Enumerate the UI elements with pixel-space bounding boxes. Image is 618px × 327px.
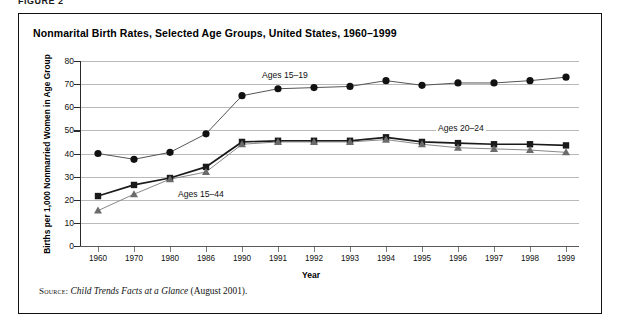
data-point-circle [94,150,101,157]
series-label-ages-15-44: Ages 15–44 [176,189,226,199]
figure-container: FIGURE 2 Nonmarital Birth Rates, Selecte… [0,0,618,327]
figure-kicker: FIGURE 2 [18,0,64,6]
data-point-circle [238,92,245,99]
series-plot-layer [19,14,603,315]
data-point-circle [310,84,317,91]
data-point-square [95,193,101,199]
figure-frame: Nonmarital Birth Rates, Selected Age Gro… [18,13,602,314]
data-point-circle [274,85,281,92]
data-point-square [563,142,569,148]
data-point-circle [526,77,533,84]
source-date: (August 2001). [191,286,248,296]
data-point-circle [490,79,497,86]
data-point-triangle [130,190,138,197]
series-label-ages-20-24: Ages 20–24 [436,123,486,133]
data-point-circle [202,130,209,137]
plot-area: Births per 1,000 Nonmarried Women in Age… [19,14,603,315]
source-title: Child Trends Facts at a Glance [71,286,189,296]
data-point-circle [382,77,389,84]
data-point-circle [166,149,173,156]
data-point-square [131,182,137,188]
series-label-ages-15-19: Ages 15–19 [260,70,310,80]
data-point-circle [418,82,425,89]
source-note: Source: Child Trends Facts at a Glance (… [39,286,247,296]
data-point-circle [454,79,461,86]
data-point-triangle [94,207,102,214]
source-label: Source: [39,286,68,296]
data-point-circle [562,74,569,81]
data-point-circle [346,83,353,90]
data-point-circle [130,156,137,163]
